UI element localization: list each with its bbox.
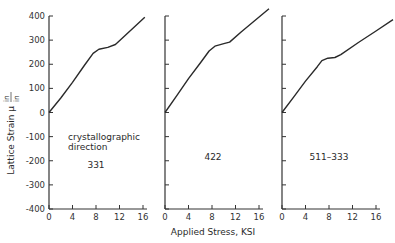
- x-tick-label: 16: [371, 212, 382, 222]
- x-tick-label: 0: [279, 212, 284, 222]
- x-tick-label: 8: [209, 212, 214, 222]
- x-tick-label: 12: [230, 212, 241, 222]
- y-tick-label: 200: [29, 59, 45, 69]
- panel-511-333: 0481216511–333: [279, 16, 393, 222]
- x-tick-label: 16: [254, 212, 265, 222]
- panel-331: 0481216331: [46, 16, 148, 222]
- y-tick-label: -400: [26, 204, 45, 214]
- y-axis-title: Lattice Strain μ in in: [2, 92, 21, 175]
- y-tick-label: -200: [26, 156, 45, 166]
- y-tick-label: 100: [29, 83, 45, 93]
- y-axis-title-text: Lattice Strain μ: [6, 106, 16, 175]
- y-tick-label: -100: [26, 132, 45, 142]
- x-tick-label: 0: [46, 212, 51, 222]
- annotation-crystallographic: crystallographic: [68, 132, 140, 142]
- x-tick-label: 8: [326, 212, 331, 222]
- panel-422: 0481216422: [162, 9, 269, 222]
- x-tick-label: 12: [347, 212, 358, 222]
- strain-curve-331: [49, 17, 145, 112]
- lattice-strain-chart: Lattice Strain μ in in 4003002001000-100…: [0, 0, 395, 243]
- x-tick-label: 4: [186, 212, 191, 222]
- x-axis-title: Applied Stress, KSI: [171, 227, 255, 237]
- strain-curve-422: [165, 9, 269, 113]
- y-axis-unit-denominator: in: [12, 95, 21, 102]
- y-tick-label: 0: [40, 108, 45, 118]
- y-axis-unit-numerator: in: [2, 95, 11, 102]
- y-axis-tick-labels: 4003002001000-100-200-300-400: [26, 11, 45, 214]
- panel-label-511-333: 511–333: [310, 152, 349, 162]
- x-tick-label: 4: [303, 212, 308, 222]
- strain-curve-511-333: [282, 20, 393, 113]
- annotation-direction: direction: [68, 142, 107, 152]
- chart-panels: 048121633104812164220481216511–333: [46, 9, 393, 222]
- x-tick-label: 12: [114, 212, 125, 222]
- panel-label-331: 331: [87, 160, 104, 170]
- y-tick-label: 300: [29, 35, 45, 45]
- x-tick-label: 16: [138, 212, 149, 222]
- x-tick-label: 4: [70, 212, 75, 222]
- panel-label-422: 422: [204, 152, 221, 162]
- y-tick-label: 400: [29, 11, 45, 21]
- x-tick-label: 8: [93, 212, 98, 222]
- y-tick-label: -300: [26, 180, 45, 190]
- x-tick-label: 0: [162, 212, 167, 222]
